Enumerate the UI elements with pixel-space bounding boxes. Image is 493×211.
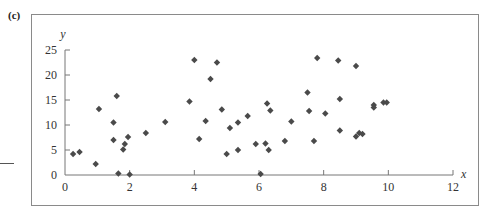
data-point-diamond-icon — [266, 147, 272, 153]
x-tick-label: 8 — [321, 180, 327, 194]
data-point-diamond-icon — [110, 119, 116, 125]
x-tick-label: 12 — [447, 180, 459, 194]
data-point-diamond-icon — [267, 107, 273, 113]
data-point-diamond-icon — [262, 140, 268, 146]
data-point-diamond-icon — [114, 93, 120, 99]
data-point-diamond-icon — [143, 130, 149, 136]
x-tick-label: 2 — [127, 180, 133, 194]
data-point-diamond-icon — [162, 119, 168, 125]
data-point-diamond-icon — [196, 136, 202, 142]
x-tick-label: 4 — [191, 180, 197, 194]
data-point-diamond-icon — [337, 127, 343, 133]
data-point-diamond-icon — [93, 161, 99, 167]
data-point-diamond-icon — [207, 76, 213, 82]
data-point-diamond-icon — [306, 108, 312, 114]
data-point-diamond-icon — [223, 151, 229, 157]
data-point-diamond-icon — [120, 146, 126, 152]
y-tick-label: 15 — [45, 93, 57, 107]
x-tick-label: 6 — [256, 180, 262, 194]
y-tick-label: 20 — [45, 68, 57, 82]
data-point-diamond-icon — [126, 171, 132, 177]
y-axis-title: y — [59, 27, 66, 41]
data-point-diamond-icon — [235, 147, 241, 153]
data-point-diamond-icon — [115, 170, 121, 176]
data-point-diamond-icon — [253, 141, 259, 147]
data-point-diamond-icon — [70, 151, 76, 157]
x-axis-title: x — [460, 167, 467, 181]
scatter-chart: 0246810120510152025xy — [0, 0, 493, 211]
data-point-diamond-icon — [282, 138, 288, 144]
data-point-diamond-icon — [186, 98, 192, 104]
data-point-diamond-icon — [76, 149, 82, 155]
data-point-diamond-icon — [96, 106, 102, 112]
y-tick-label: 5 — [51, 143, 57, 157]
x-tick-label: 10 — [382, 180, 394, 194]
data-point-diamond-icon — [288, 118, 294, 124]
data-point-diamond-icon — [264, 100, 270, 106]
data-point-diamond-icon — [110, 137, 116, 143]
y-tick-label: 25 — [45, 43, 57, 57]
x-tick-label: 0 — [62, 180, 68, 194]
data-point-diamond-icon — [337, 96, 343, 102]
data-point-diamond-icon — [219, 106, 225, 112]
data-point-diamond-icon — [122, 141, 128, 147]
data-point-diamond-icon — [257, 171, 263, 177]
data-point-diamond-icon — [335, 57, 341, 63]
data-point-diamond-icon — [227, 125, 233, 131]
y-tick-label: 0 — [51, 168, 57, 182]
data-point-diamond-icon — [235, 119, 241, 125]
data-point-diamond-icon — [314, 55, 320, 61]
data-point-diamond-icon — [202, 118, 208, 124]
data-point-diamond-icon — [244, 113, 250, 119]
data-point-diamond-icon — [125, 134, 131, 140]
data-point-diamond-icon — [191, 57, 197, 63]
data-point-diamond-icon — [311, 138, 317, 144]
y-tick-label: 10 — [45, 118, 57, 132]
data-point-diamond-icon — [384, 99, 390, 105]
axes: 0246810120510152025xy — [45, 27, 467, 194]
data-points — [70, 55, 390, 178]
data-point-diamond-icon — [353, 63, 359, 69]
data-point-diamond-icon — [322, 110, 328, 116]
data-point-diamond-icon — [214, 59, 220, 65]
data-point-diamond-icon — [304, 89, 310, 95]
